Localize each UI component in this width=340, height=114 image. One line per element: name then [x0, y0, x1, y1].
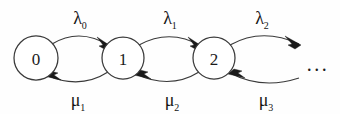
- state-node-label: 1: [119, 50, 128, 69]
- arc-state2-to-continuation[interactable]: [230, 36, 301, 49]
- mu-3-label: μ3: [259, 90, 274, 113]
- continuation-ellipsis: ...: [307, 53, 330, 75]
- lambda-0-label: λ0: [73, 8, 87, 31]
- birth-rate-labels: λ0 λ1 λ2: [73, 8, 269, 31]
- backward-transition-arcs: [44, 69, 299, 83]
- arc-state1-to-state2[interactable]: [139, 37, 203, 50]
- state-node-0[interactable]: 0: [14, 36, 58, 80]
- diagram-canvas: 0 1 2 ... λ0 λ1 λ2: [0, 0, 340, 114]
- lambda-symbol: λ: [255, 8, 264, 28]
- arc-state0-to-state1[interactable]: [52, 36, 112, 50]
- lambda-subscript: 2: [264, 20, 269, 31]
- mu-subscript: 1: [80, 102, 85, 113]
- arrow-head-icon: [285, 36, 301, 49]
- mu-symbol: μ: [259, 90, 269, 110]
- arc-state2-to-state1[interactable]: [134, 70, 199, 82]
- mu-subscript: 2: [174, 102, 179, 113]
- lambda-subscript: 0: [82, 20, 87, 31]
- state-node-label: 2: [210, 50, 219, 69]
- lambda-subscript: 1: [172, 20, 177, 31]
- lambda-symbol: λ: [73, 8, 82, 28]
- arc-continuation-to-state2[interactable]: [228, 69, 299, 83]
- arc-state1-to-state0[interactable]: [44, 71, 108, 82]
- mu-symbol: μ: [71, 90, 81, 110]
- mu-2-label: μ2: [165, 90, 180, 113]
- lambda-symbol: λ: [163, 8, 172, 28]
- state-node-1[interactable]: 1: [102, 37, 144, 79]
- mu-subscript: 3: [268, 102, 273, 113]
- state-node-label: 0: [32, 50, 41, 69]
- lambda-1-label: λ1: [163, 8, 177, 31]
- birth-death-diagram: 0 1 2 ... λ0 λ1 λ2: [0, 0, 340, 114]
- state-node-2[interactable]: 2: [193, 37, 235, 79]
- lambda-2-label: λ2: [255, 8, 269, 31]
- mu-1-label: μ1: [71, 90, 86, 113]
- mu-symbol: μ: [165, 90, 175, 110]
- forward-transition-arcs: [52, 36, 301, 50]
- death-rate-labels: μ1 μ2 μ3: [71, 90, 274, 113]
- state-nodes: 0 1 2: [14, 36, 235, 80]
